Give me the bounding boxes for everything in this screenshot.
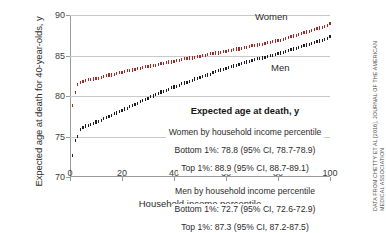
data-point [106,74,107,77]
data-point [257,57,258,60]
data-point [77,135,78,138]
data-point [75,139,76,142]
data-point [114,73,115,76]
data-point [205,54,206,57]
data-point [90,78,91,81]
data-point [140,67,141,70]
data-point [147,97,148,100]
data-point [264,42,265,45]
data-point [147,65,148,68]
data-point [158,63,159,66]
data-point [298,46,299,49]
data-point [270,41,271,44]
data-point [119,110,120,113]
data-point [98,77,99,80]
y-axis-title: Expected age at death for 40-year-olds, … [33,12,44,192]
data-point [168,60,169,63]
data-point [218,51,219,54]
data-point [80,81,81,84]
data-point [124,107,125,110]
legend-women-heading: Women by household income percentile [166,127,325,138]
source-credit-line1: DATA FROM CHETTY ET AL [2016], JOURNAL O… [372,15,379,211]
data-point [238,47,239,50]
data-point [309,43,310,46]
data-point [324,25,325,28]
data-point [309,30,310,33]
legend-group-women: Women by household income percentile Bot… [155,121,335,175]
data-point [205,74,206,77]
data-point [176,85,177,88]
data-point [251,59,252,62]
data-point [192,79,193,82]
data-point [327,37,328,40]
y-tick-label: 75 [41,132,65,142]
data-point [311,29,312,32]
data-point [218,69,219,72]
data-point [327,24,328,27]
data-point [137,67,138,70]
data-point [290,48,291,51]
data-point [197,55,198,58]
data-point [158,92,159,95]
series-label-men: Men [271,62,289,73]
data-point [246,46,247,49]
data-point [90,123,91,126]
data-point [210,52,211,55]
data-point [184,81,185,84]
data-point [212,71,213,74]
data-point [238,63,239,66]
legend-title: Expected age at death, y [189,106,302,116]
data-point [202,54,203,57]
legend-men-bottom: Bottom 1%: 72.7 (95% CI, 72.6-72.9) [172,204,319,215]
data-point [225,50,226,53]
data-point [316,40,317,43]
data-point [329,35,330,38]
data-point [262,43,263,46]
data-point [121,71,122,74]
data-point [324,38,325,41]
data-point [189,80,190,83]
data-point [155,93,156,96]
data-point [283,38,284,41]
data-point [121,109,122,112]
data-point [314,28,315,31]
data-point [233,64,234,67]
legend-men-heading: Men by household income percentile [172,186,318,197]
data-point [215,70,216,73]
data-point [244,61,245,64]
data-point [293,34,294,37]
data-point [241,62,242,65]
data-point [306,43,307,46]
data-point [288,36,289,39]
data-point [228,49,229,52]
data-point [233,48,234,51]
data-point [207,53,208,56]
y-tick [66,15,70,16]
data-point [285,50,286,53]
data-point [173,85,174,88]
data-point [314,41,315,44]
data-point [241,47,242,50]
data-point [236,64,237,67]
data-point [254,58,255,61]
data-point [249,60,250,63]
data-point [103,117,104,120]
data-point [176,59,177,62]
data-point [184,57,185,60]
legend-men-top: Top 1%: 87.3 (95% CI, 87.2-87.5) [178,222,312,233]
data-point [98,120,99,123]
data-point [142,99,143,102]
data-point [129,105,130,108]
data-point [173,60,174,63]
data-point [197,77,198,80]
data-point [283,51,284,54]
data-point [153,94,154,97]
data-point [298,33,299,36]
data-point [111,114,112,117]
data-point [220,51,221,54]
data-point [322,39,323,42]
data-point [194,77,195,80]
data-point [223,68,224,71]
data-point [249,45,250,48]
data-point [171,86,172,89]
